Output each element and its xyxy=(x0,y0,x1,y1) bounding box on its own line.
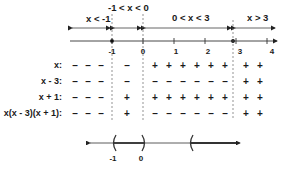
minus-sign: – xyxy=(208,109,214,119)
minus-sign: – xyxy=(180,77,186,87)
minus-sign: – xyxy=(72,77,78,87)
tick-label: 2 xyxy=(206,48,210,56)
minus-sign: – xyxy=(180,109,186,119)
solution-line xyxy=(90,135,240,151)
tick-label: 4 xyxy=(270,48,274,56)
tick-label: 1 xyxy=(174,48,178,56)
minus-sign: – xyxy=(124,77,130,87)
minus-sign: – xyxy=(72,93,78,103)
minus-sign: – xyxy=(98,109,104,119)
plus-sign: + xyxy=(152,61,158,71)
row-label-x-plus-1: x + 1: xyxy=(39,93,62,102)
minus-sign: – xyxy=(194,77,200,87)
tick-label: 0 xyxy=(141,48,145,56)
plus-sign: + xyxy=(166,61,172,71)
minus-sign: – xyxy=(85,61,91,71)
plus-sign: + xyxy=(257,77,263,87)
plus-sign: + xyxy=(180,61,186,71)
minus-sign: – xyxy=(124,61,130,71)
minus-sign: – xyxy=(208,77,214,87)
plus-sign: + xyxy=(243,77,249,87)
minus-sign: – xyxy=(85,77,91,87)
minus-sign: – xyxy=(166,77,172,87)
minus-sign: – xyxy=(85,109,91,119)
solution-label-neg1: -1 xyxy=(109,155,116,163)
plus-sign: + xyxy=(257,61,263,71)
plus-sign: + xyxy=(152,93,158,103)
plus-sign: + xyxy=(208,61,214,71)
plus-sign: + xyxy=(194,93,200,103)
minus-sign: – xyxy=(85,93,91,103)
minus-sign: – xyxy=(152,77,158,87)
plus-sign: + xyxy=(257,93,263,103)
plus-sign: + xyxy=(243,93,249,103)
plus-sign: + xyxy=(124,109,130,119)
number-line xyxy=(70,38,277,44)
minus-sign: – xyxy=(72,109,78,119)
row-label-product: x(x - 3)(x + 1): xyxy=(4,109,62,118)
plus-sign: + xyxy=(194,61,200,71)
minus-sign: – xyxy=(98,93,104,103)
plus-sign: + xyxy=(222,93,228,103)
row-label-x-minus-3: x - 3: xyxy=(41,77,62,86)
interval-label-lt-neg1: x < -1 xyxy=(86,14,111,24)
minus-sign: – xyxy=(166,109,172,119)
plus-sign: + xyxy=(124,93,130,103)
tick-label: 3 xyxy=(238,48,242,56)
sign-chart-diagram: x < -1 -1 < x < 0 0 < x < 3 x > 3 -1 0 1… xyxy=(0,0,293,172)
plus-sign: + xyxy=(243,61,249,71)
plus-sign: + xyxy=(243,109,249,119)
interval-label-neg1-to-0: -1 < x < 0 xyxy=(108,3,149,13)
minus-sign: – xyxy=(98,77,104,87)
tick-label: -1 xyxy=(108,48,115,56)
plus-sign: + xyxy=(166,93,172,103)
minus-sign: – xyxy=(98,61,104,71)
plus-sign: + xyxy=(222,61,228,71)
plus-sign: + xyxy=(208,93,214,103)
minus-sign: – xyxy=(72,61,78,71)
interval-label-0-to-3: 0 < x < 3 xyxy=(172,13,210,23)
minus-sign: – xyxy=(194,109,200,119)
plus-sign: + xyxy=(257,109,263,119)
interval-label-gt-3: x > 3 xyxy=(247,13,268,23)
minus-sign: – xyxy=(152,109,158,119)
plus-sign: + xyxy=(180,93,186,103)
minus-sign: – xyxy=(222,77,228,87)
row-label-x: x: xyxy=(54,61,62,70)
minus-sign: – xyxy=(222,109,228,119)
solution-label-0: 0 xyxy=(139,155,143,163)
